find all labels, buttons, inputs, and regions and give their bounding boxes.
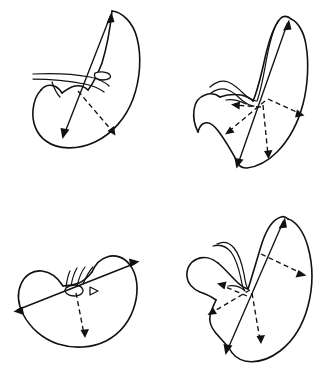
measurement-short-axis-3 (76, 293, 89, 338)
organ-outline-4 (187, 217, 312, 362)
panel-top-left (0, 0, 164, 192)
hilum-oval-1 (94, 72, 110, 80)
panel-top-right (164, 0, 328, 192)
measurement-radial-axes-2 (225, 99, 305, 159)
hatch-marks-3 (66, 267, 93, 287)
measurement-long-axis-3 (14, 259, 140, 316)
panel-bottom-right (164, 192, 328, 383)
panel-bottom-left (0, 192, 164, 383)
organ-outline-2 (194, 16, 308, 168)
hilum-triangle-3 (90, 287, 98, 295)
hilar-vessel-bands-2 (210, 81, 256, 106)
measurement-short-axis-1 (78, 91, 116, 136)
figure-grid (0, 0, 328, 383)
